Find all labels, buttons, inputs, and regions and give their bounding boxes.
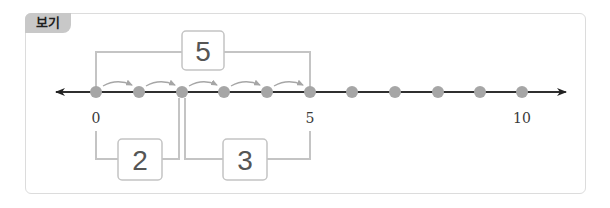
tick-label-0: 0	[92, 110, 101, 126]
top-bracket-value: 5	[195, 36, 211, 67]
tick-label-10: 10	[513, 110, 531, 126]
hop-arrows	[103, 82, 303, 86]
number-line-diagram: 5 0 5 10 2 3	[0, 0, 610, 208]
bottom-left-bracket-value: 2	[132, 145, 148, 176]
bottom-right-bracket-value: 3	[237, 145, 253, 176]
tick-label-5: 5	[306, 110, 315, 126]
